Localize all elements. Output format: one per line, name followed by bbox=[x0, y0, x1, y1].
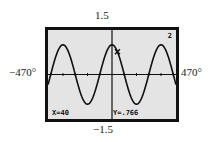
y-readout: Y=.766 bbox=[113, 109, 138, 117]
function-number: 2 bbox=[168, 32, 172, 40]
y-max-label: 1.5 bbox=[95, 9, 109, 21]
graph-plot bbox=[48, 30, 176, 119]
x-readout: X=40 bbox=[52, 109, 69, 117]
calculator-screen: 2 X=40 Y=.766 bbox=[45, 27, 179, 122]
x-max-label: 470° bbox=[181, 66, 202, 78]
y-min-label: −1.5 bbox=[93, 123, 113, 135]
x-min-label: −470° bbox=[9, 66, 36, 78]
